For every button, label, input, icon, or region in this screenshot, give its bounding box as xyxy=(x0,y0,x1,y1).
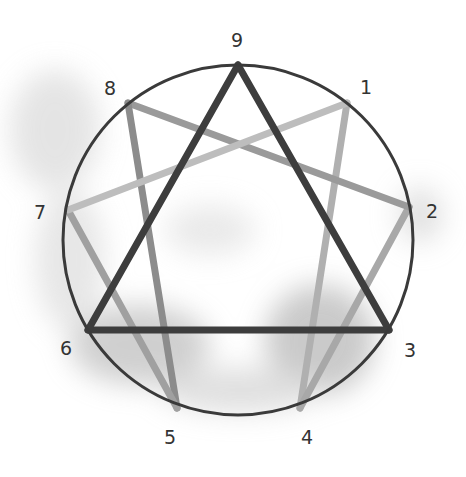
point-label-8: 8 xyxy=(104,79,116,98)
point-label-3: 3 xyxy=(404,341,416,360)
triangle-line-6-9 xyxy=(88,65,238,330)
point-label-7: 7 xyxy=(34,203,46,222)
enneagram-figure xyxy=(0,0,466,477)
watercolor-shading xyxy=(10,70,442,412)
point-label-6: 6 xyxy=(60,339,72,358)
point-label-4: 4 xyxy=(301,428,313,447)
point-label-1: 1 xyxy=(360,78,372,97)
point-label-5: 5 xyxy=(164,428,176,447)
point-label-2: 2 xyxy=(426,202,438,221)
point-label-9: 9 xyxy=(231,31,243,50)
